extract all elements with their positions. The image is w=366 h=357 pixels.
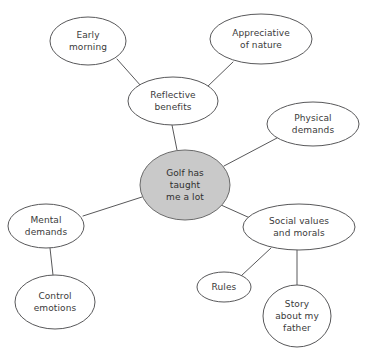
- node-label-line: Social values: [269, 216, 329, 226]
- node-label-line: demands: [25, 227, 68, 237]
- connector-central-to-physical-demands: [224, 138, 277, 166]
- node-label-line: benefits: [154, 102, 191, 112]
- node-control-emotions[interactable]: Controlemotions: [15, 275, 95, 329]
- node-label-line: Story: [285, 299, 310, 309]
- node-central[interactable]: Golf hastaughtme a lot: [140, 150, 230, 220]
- node-label-line: Control: [38, 291, 71, 301]
- node-label-line: morning: [69, 42, 107, 52]
- node-layer: Golf hastaughtme a lotReflectivebenefits…: [8, 14, 359, 347]
- node-label-line: of nature: [240, 40, 282, 50]
- node-reflective-benefits[interactable]: Reflectivebenefits: [128, 77, 218, 125]
- node-story-about-my-father[interactable]: Storyabout myfather: [263, 285, 331, 347]
- node-early-morning[interactable]: Earlymorning: [50, 17, 126, 65]
- mind-map-canvas: Golf hastaughtme a lotReflectivebenefits…: [0, 0, 366, 357]
- node-physical-demands[interactable]: Physicaldemands: [267, 102, 359, 146]
- connector-central-to-reflective-benefits: [172, 125, 177, 150]
- node-label-line: Golf has: [166, 168, 204, 178]
- node-label-rules: Rules: [212, 282, 237, 292]
- node-mental-demands[interactable]: Mentaldemands: [8, 204, 84, 248]
- node-label-line: Early: [76, 30, 100, 40]
- connector-mental-demands-to-control-emotions: [50, 248, 53, 275]
- connector-central-to-social-values-and-morals: [221, 205, 250, 218]
- node-label-line: and morals: [273, 228, 325, 238]
- node-appreciative-of-nature[interactable]: Appreciativeof nature: [210, 14, 312, 64]
- node-label-line: demands: [292, 125, 335, 135]
- node-label-line: taught: [170, 180, 201, 190]
- node-social-values-and-morals[interactable]: Social valuesand morals: [243, 204, 355, 250]
- node-label-line: me a lot: [166, 192, 204, 202]
- node-label-line: emotions: [34, 303, 77, 313]
- connector-reflective-benefits-to-early-morning: [117, 59, 141, 86]
- mind-map-svg: Golf hastaughtme a lotReflectivebenefits…: [0, 0, 366, 357]
- node-rules[interactable]: Rules: [197, 272, 251, 302]
- node-label-central: Golf hastaughtme a lot: [166, 168, 204, 202]
- node-label-line: Physical: [294, 113, 331, 123]
- node-label-line: about my: [275, 311, 319, 321]
- connector-central-to-mental-demands: [83, 197, 142, 216]
- connector-social-values-and-morals-to-rules: [241, 248, 271, 276]
- connector-reflective-benefits-to-appreciative-of-nature: [206, 62, 233, 88]
- node-label-line: Mental: [30, 215, 61, 225]
- node-label-line: Appreciative: [232, 28, 290, 38]
- node-label-line: father: [283, 323, 311, 333]
- node-label-line: Rules: [212, 282, 237, 292]
- node-label-line: Reflective: [150, 90, 196, 100]
